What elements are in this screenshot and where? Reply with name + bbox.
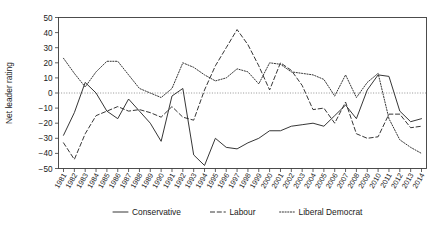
y-tick-label: −30	[39, 134, 53, 143]
y-tick-label: 10	[43, 74, 53, 83]
y-tick-label: 30	[43, 44, 53, 53]
series-line-liberal-democrat	[64, 58, 422, 153]
series-line-labour	[64, 30, 422, 160]
line-chart: Net leader rating 50403020100−10−20−30−4…	[0, 0, 434, 232]
y-tick-label: 50	[43, 14, 53, 23]
y-axis-ticks: 50403020100−10−20−30−40−50	[39, 14, 59, 174]
series-lines	[64, 30, 422, 166]
series-line-conservative	[64, 75, 422, 166]
x-tick-label: 2014	[411, 172, 427, 191]
legend-label-conservative: Conservative	[132, 207, 181, 217]
y-tick-label: 40	[43, 29, 53, 38]
y-axis-title-label: Net leader rating	[4, 62, 14, 124]
chart-container: Net leader rating 50403020100−10−20−30−4…	[0, 0, 434, 232]
y-tick-label: 20	[43, 59, 53, 68]
y-tick-label: −10	[39, 104, 53, 113]
legend-label-liberal-democrat: Liberal Democrat	[299, 207, 363, 217]
chart-legend: ConservativeLabourLiberal Democrat	[113, 207, 363, 217]
y-tick-label: −20	[39, 119, 53, 128]
y-axis-title: Net leader rating	[4, 62, 14, 124]
legend-label-labour: Labour	[229, 207, 255, 217]
y-tick-label: 0	[48, 89, 53, 98]
x-axis-ticks: 1981198219831984198519861987198819891990…	[53, 169, 427, 191]
y-tick-label: −40	[39, 149, 53, 158]
y-tick-label: −50	[39, 165, 53, 174]
